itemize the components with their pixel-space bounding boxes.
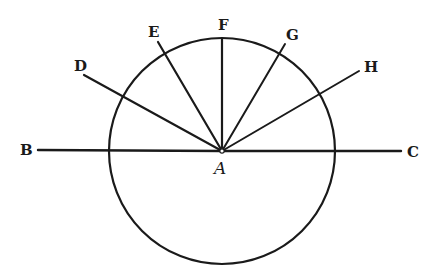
label-f: F: [218, 16, 229, 34]
line-ad: [84, 75, 222, 151]
label-b: B: [20, 141, 33, 159]
line-ag: [222, 44, 285, 151]
geometric-diagram: B C D E F G H A: [0, 0, 434, 277]
label-g: G: [286, 26, 299, 44]
label-e: E: [148, 23, 159, 41]
label-d: D: [74, 57, 87, 75]
center-point: [220, 149, 224, 153]
label-h: H: [364, 58, 378, 76]
line-ae: [158, 42, 222, 151]
line-ah: [222, 71, 359, 151]
label-c: C: [407, 143, 419, 161]
label-a: A: [212, 158, 226, 178]
line-ab: [38, 150, 222, 151]
